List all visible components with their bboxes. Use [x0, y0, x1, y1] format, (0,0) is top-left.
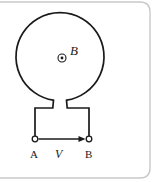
voltage-label: V: [55, 148, 62, 160]
voltage-arrow-head-icon: [79, 136, 86, 142]
lead-wire-right: [67, 100, 90, 136]
terminal-b-node: [86, 136, 92, 142]
terminal-b-label: B: [85, 149, 92, 160]
terminal-a-label: A: [30, 149, 38, 160]
figure-container: B V A B: [0, 0, 156, 182]
terminal-a-node: [32, 136, 38, 142]
loop-circle: [16, 13, 104, 101]
lead-wire-left: [35, 100, 54, 136]
frame-border: [0, 2, 150, 178]
circuit-diagram-svg: [0, 0, 156, 182]
field-dot-icon: [61, 57, 64, 60]
field-label: B: [70, 44, 78, 57]
